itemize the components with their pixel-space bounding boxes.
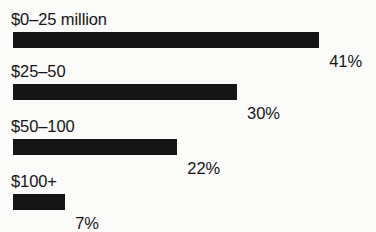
bar-track: 30% <box>13 84 376 100</box>
bar-row: $25–50 30% <box>0 62 376 107</box>
bar-row: $50–100 22% <box>0 117 376 162</box>
bar-category-label: $50–100 <box>11 117 75 136</box>
bar-fill <box>13 84 237 100</box>
bar-row: $0–25 million 41% <box>0 10 376 55</box>
bar-fill <box>13 194 65 210</box>
bar-row: $100+ 7% <box>0 172 376 217</box>
bar-value-label: 7% <box>75 214 99 232</box>
horizontal-bar-chart: $0–25 million 41% $25–50 30% $50–100 22%… <box>0 0 376 232</box>
bar-track: 22% <box>13 139 376 155</box>
bar-category-label: $0–25 million <box>11 10 107 29</box>
bar-category-label: $100+ <box>11 172 57 191</box>
bar-track: 7% <box>13 194 376 210</box>
bar-track: 41% <box>13 32 376 48</box>
bar-category-label: $25–50 <box>11 62 65 81</box>
bar-fill <box>13 139 177 155</box>
bar-fill <box>13 32 319 48</box>
